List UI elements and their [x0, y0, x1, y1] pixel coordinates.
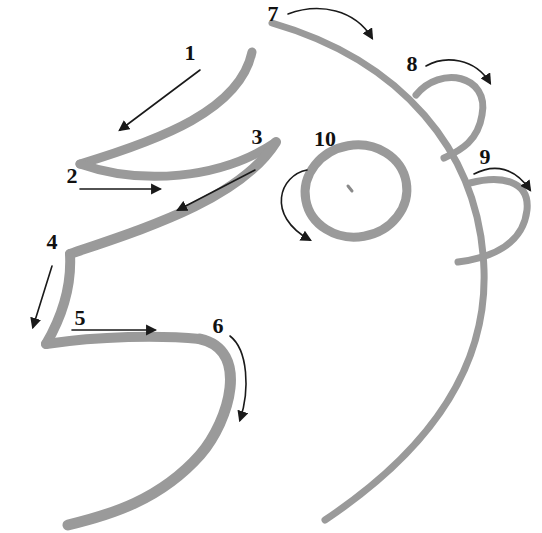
step-label-9: 9 — [480, 146, 491, 168]
stroke-6-neck-curve — [68, 339, 230, 525]
stroke-1-upper-beak — [80, 52, 252, 164]
step-label-6: 6 — [213, 315, 224, 337]
stroke-10-eye — [298, 137, 414, 245]
step-label-4: 4 — [47, 231, 58, 253]
arrow-4-icon — [33, 266, 52, 327]
step-label-2: 2 — [67, 165, 78, 187]
step-label-1: 1 — [185, 42, 196, 64]
step-label-8: 8 — [407, 53, 418, 75]
eye-pupil — [348, 186, 352, 191]
drawing-guide-canvas: 1 2 3 4 5 6 7 8 9 10 — [0, 0, 542, 533]
stroke-5-chin-line — [46, 337, 200, 344]
step-label-10: 10 — [314, 128, 336, 150]
stroke-4-chin-down — [46, 254, 70, 344]
step-label-5: 5 — [75, 307, 86, 329]
step-label-7: 7 — [268, 3, 279, 25]
drawing-strokes — [0, 0, 542, 533]
step-label-3: 3 — [252, 126, 263, 148]
stroke-7-head-arc — [272, 23, 484, 520]
